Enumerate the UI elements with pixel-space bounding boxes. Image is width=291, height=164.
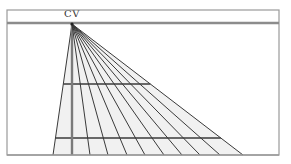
- cv-point-icon: [70, 22, 73, 25]
- perspective-diagram: [0, 0, 291, 164]
